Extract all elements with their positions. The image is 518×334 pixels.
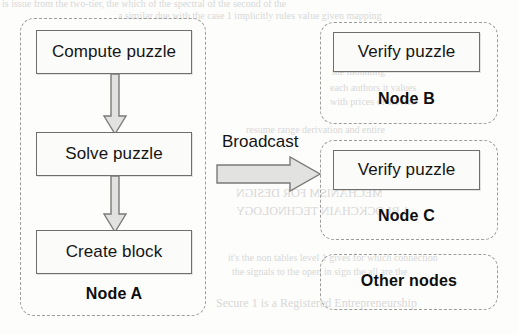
- compute-puzzle-label: Compute puzzle: [52, 42, 176, 62]
- create-block-label: Create block: [66, 242, 163, 262]
- node-b-label: Node B: [333, 90, 480, 108]
- verify-puzzle-label-c: Verify puzzle: [358, 160, 456, 180]
- broadcast-label: Broadcast: [222, 132, 299, 152]
- create-block-box[interactable]: Create block: [36, 230, 192, 274]
- arrow-solve-to-create: [102, 176, 128, 234]
- solve-puzzle-label: Solve puzzle: [65, 144, 163, 164]
- down-arrow-icon: [104, 74, 126, 134]
- verify-puzzle-label-b: Verify puzzle: [358, 42, 456, 62]
- solve-puzzle-box[interactable]: Solve puzzle: [36, 132, 192, 176]
- diagram-canvas: is issue from the two-tier, the which of…: [0, 0, 518, 334]
- down-arrow-icon: [104, 176, 126, 232]
- node-c-label: Node C: [333, 207, 480, 225]
- node-a-label: Node A: [36, 285, 192, 303]
- broadcast-arrow: [216, 156, 322, 194]
- verify-puzzle-box-c[interactable]: Verify puzzle: [333, 150, 480, 190]
- verify-puzzle-box-b[interactable]: Verify puzzle: [333, 32, 480, 72]
- ghost-text: is issue from the two-tier, the which of…: [2, 0, 286, 9]
- arrow-compute-to-solve: [102, 74, 128, 136]
- compute-puzzle-box[interactable]: Compute puzzle: [36, 30, 192, 74]
- right-arrow-icon: [217, 157, 320, 191]
- other-nodes-label: Other nodes: [330, 272, 488, 290]
